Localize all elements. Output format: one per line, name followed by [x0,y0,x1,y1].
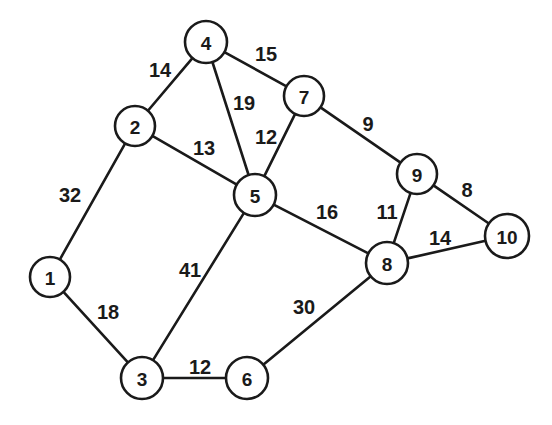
edge-weight-label: 8 [461,179,472,201]
edge-weight-label: 15 [255,43,277,65]
graph-canvas: 3218141341121915121630911148 12345678910 [0,0,552,425]
node-label: 7 [299,87,310,108]
edge-weight-label: 14 [429,227,452,249]
node-label: 1 [45,268,56,289]
nodes-layer: 12345678910 [30,21,529,399]
edge-weight-label: 32 [59,184,81,206]
weighted-graph-diagram: 3218141341121915121630911148 12345678910 [0,0,552,425]
node-label: 2 [130,117,141,138]
graph-node-8: 8 [366,242,408,284]
graph-node-10: 10 [485,214,529,258]
node-label: 3 [137,369,148,390]
node-label: 5 [250,186,261,207]
graph-node-7: 7 [284,76,324,116]
edge-weight-label: 12 [255,126,277,148]
node-label: 8 [382,254,393,275]
graph-node-5: 5 [234,174,276,216]
edge-weight-label: 30 [293,296,315,318]
node-label: 6 [242,369,253,390]
edges-layer [60,52,489,378]
graph-node-3: 3 [121,357,163,399]
graph-edge [153,213,244,360]
graph-node-6: 6 [226,357,268,399]
graph-edge [263,276,371,364]
edge-weight-label: 19 [233,92,255,114]
edge-weight-label: 12 [189,356,211,378]
graph-node-1: 1 [30,257,70,297]
edge-weight-label: 14 [149,59,172,81]
graph-edge [212,62,248,175]
node-label: 9 [412,165,423,186]
node-label: 10 [496,227,517,248]
graph-edge [320,107,400,162]
edge-weight-label: 16 [316,201,338,223]
edge-weight-label: 18 [97,301,119,323]
node-label: 4 [201,33,212,54]
edge-weight-label: 11 [376,201,397,223]
graph-node-9: 9 [397,154,437,194]
graph-node-2: 2 [115,106,155,146]
edge-weight-label: 13 [193,137,215,159]
edge-weight-label: 9 [362,113,373,135]
edge-weight-label: 41 [179,259,201,281]
graph-node-4: 4 [185,21,227,63]
